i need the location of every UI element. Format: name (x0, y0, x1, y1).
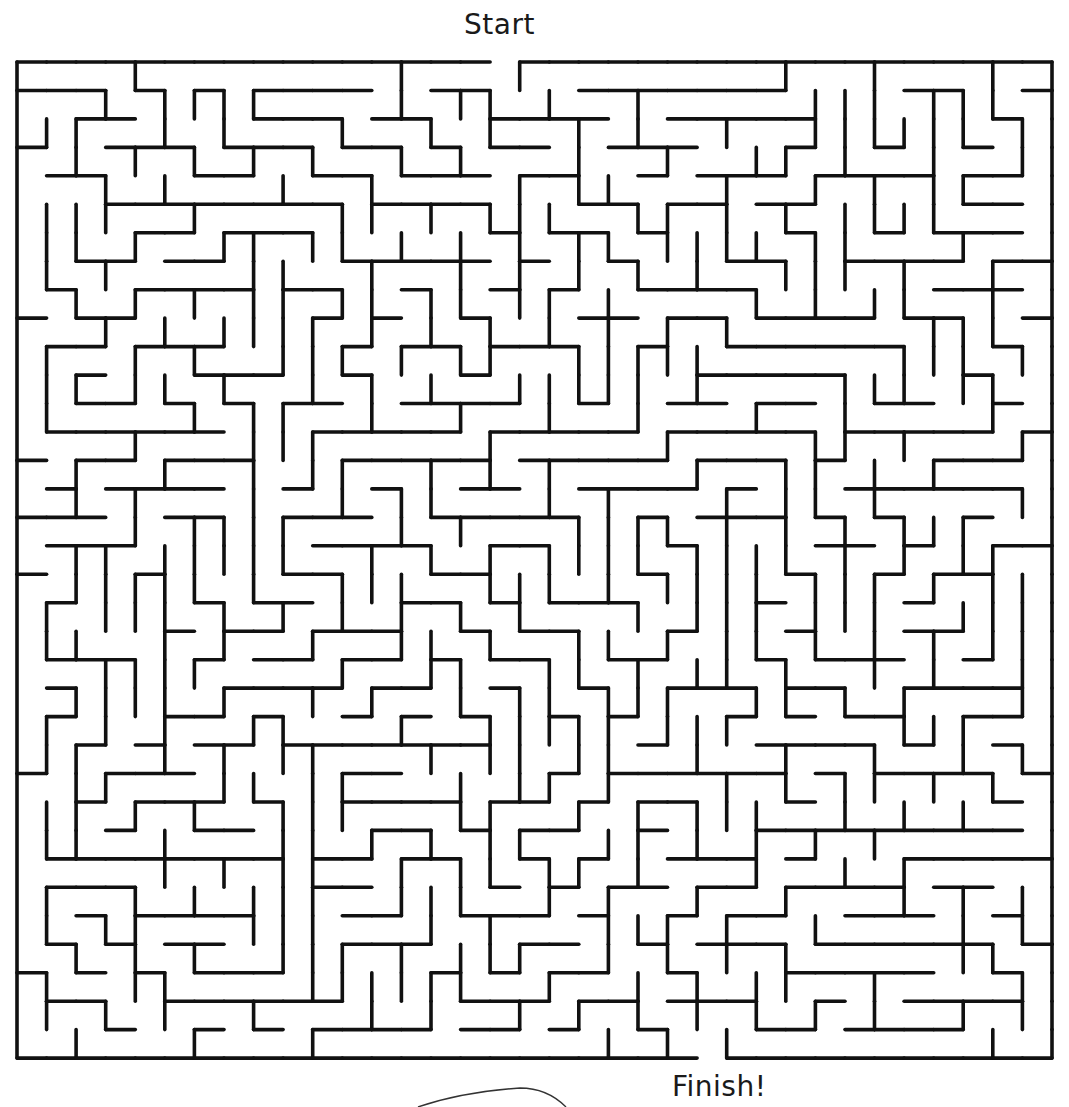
maze-walls (17, 62, 1052, 1058)
maze (0, 0, 1069, 1107)
finish-label: Finish! (672, 1073, 766, 1101)
start-label: Start (464, 11, 535, 39)
